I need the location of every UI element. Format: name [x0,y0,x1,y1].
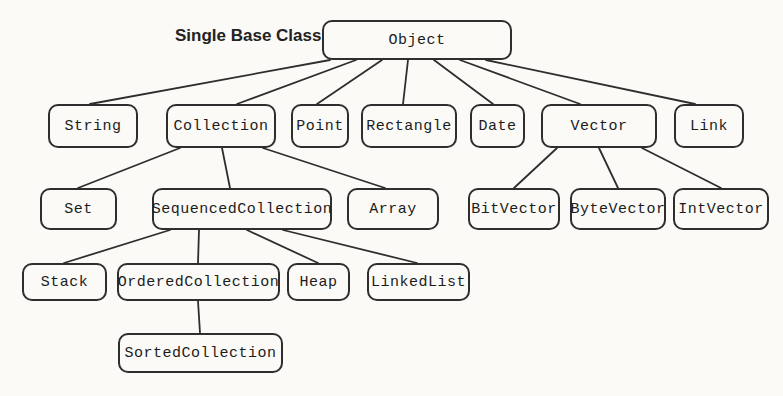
edge-object-date [434,60,493,104]
class-node-orderedcollection: OrderedCollection [117,263,280,301]
edge-sequencedcollection-stack [64,230,170,263]
edge-orderedcollection-sortedcollection [198,301,200,333]
class-node-set: Set [40,188,117,230]
class-node-intvector: IntVector [673,188,769,230]
class-node-bitvector: BitVector [468,188,560,230]
class-node-stack: Stack [22,263,107,301]
edge-object-link [486,60,695,104]
edge-vector-intvector [642,148,721,188]
class-node-link: Link [674,104,744,148]
edge-sequencedcollection-heap [247,230,318,263]
class-node-object: Object [322,20,512,60]
edge-collection-set [78,148,180,188]
class-node-date: Date [470,104,525,148]
diagram-title: Single Base Class [175,26,307,46]
class-node-vector: Vector [541,104,657,148]
edge-object-point [317,60,382,104]
class-node-heap: Heap [287,263,350,301]
edge-sequencedcollection-linkedlist [283,230,417,263]
edge-sequencedcollection-orderedcollection [198,230,199,263]
class-hierarchy-diagram: Single Base Class ObjectStringCollection… [0,0,783,396]
edge-object-rectangle [403,60,408,104]
class-node-point: Point [291,104,349,148]
class-node-sequencedcollection: SequencedCollection [152,188,332,230]
class-node-collection: Collection [166,104,276,148]
class-node-array: Array [347,188,439,230]
class-node-string: String [48,104,138,148]
class-node-rectangle: Rectangle [361,104,457,148]
edge-collection-array [263,148,385,188]
class-node-linkedlist: LinkedList [367,263,470,301]
edge-vector-bitvector [514,148,557,188]
class-node-sortedcollection: SortedCollection [118,333,283,373]
edge-vector-bytevector [599,148,618,188]
class-node-bytevector: ByteVector [570,188,666,230]
edge-collection-sequencedcollection [222,148,230,188]
